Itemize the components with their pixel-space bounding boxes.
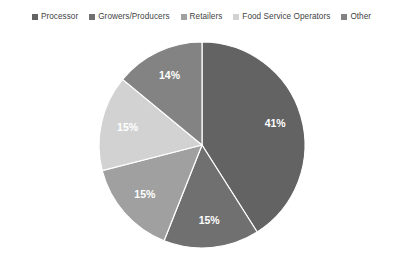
pie-slice-data-label: 15%	[117, 121, 139, 133]
legend-swatch-icon	[32, 14, 38, 20]
legend-swatch-icon	[89, 14, 95, 20]
legend-item[interactable]: Processor	[32, 13, 78, 21]
legend-item-label: Food Service Operators	[242, 13, 330, 21]
pie-slice-data-label: 15%	[134, 188, 156, 200]
pie-plot-area: 41%15%15%15%14%	[0, 26, 403, 260]
legend-item-label: Processor	[41, 13, 78, 21]
pie-slice-data-label: 15%	[199, 214, 221, 226]
legend-item-label: Retailers	[190, 13, 223, 21]
legend-item[interactable]: Other	[341, 13, 371, 21]
legend-item[interactable]: Growers/Producers	[89, 13, 169, 21]
legend-item-label: Growers/Producers	[98, 13, 169, 21]
legend-swatch-icon	[233, 14, 239, 20]
legend-item-label: Other	[350, 13, 371, 21]
legend-item[interactable]: Retailers	[181, 13, 223, 21]
pie-svg: 41%15%15%15%14%	[0, 26, 403, 260]
legend-item[interactable]: Food Service Operators	[233, 13, 330, 21]
pie-slice-data-label: 41%	[265, 117, 287, 129]
pie-chart-figure: ProcessorGrowers/ProducersRetailersFood …	[0, 0, 403, 260]
pie-slice-data-label: 14%	[159, 69, 181, 81]
chart-legend: ProcessorGrowers/ProducersRetailersFood …	[0, 8, 403, 26]
legend-swatch-icon	[181, 14, 187, 20]
legend-swatch-icon	[341, 14, 347, 20]
